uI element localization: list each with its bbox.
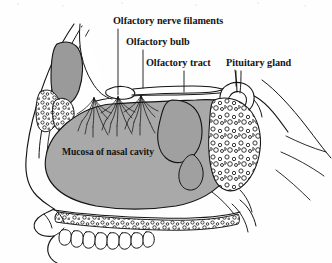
label-mucosa-of-nasal-cavity: Mucosa of nasal cavity — [62, 147, 154, 157]
sphenoid-sinus-diploe — [209, 98, 261, 191]
label-olfactory-bulb: Olfactory bulb — [126, 37, 190, 47]
nasopharynx-outline — [212, 190, 252, 214]
cranial-cavity-frontal-lobe — [80, 24, 113, 99]
teeth-row — [59, 230, 154, 250]
label-olfactory-nerve-filaments: Olfactory nerve filaments — [113, 16, 223, 26]
label-olfactory-tract: Olfactory tract — [146, 58, 211, 68]
figure-root: Olfactory nerve filaments Olfactory bulb… — [0, 0, 332, 263]
label-pituitary-gland: Pituitary gland — [226, 58, 291, 68]
